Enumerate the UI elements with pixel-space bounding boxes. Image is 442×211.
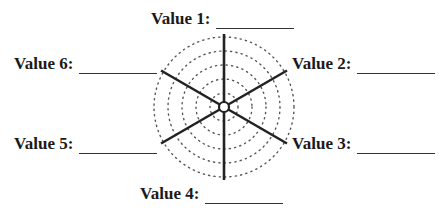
- value-4-label: Value 4:: [140, 184, 283, 204]
- value-3-label: Value 3:: [292, 134, 435, 154]
- value-2-blank[interactable]: [357, 59, 435, 74]
- value-2-label: Value 2:: [292, 54, 435, 74]
- value-3-blank[interactable]: [357, 139, 435, 154]
- value-5-blank[interactable]: [79, 139, 157, 154]
- radar-grid: [0, 0, 442, 211]
- value-1-label: Value 1:: [151, 9, 294, 29]
- value-6-label: Value 6:: [14, 54, 157, 74]
- value-5-label: Value 5:: [14, 134, 157, 154]
- value-4-blank[interactable]: [205, 189, 283, 204]
- value-1-blank[interactable]: [216, 14, 294, 29]
- center-node: [219, 102, 229, 112]
- value-6-blank[interactable]: [79, 59, 157, 74]
